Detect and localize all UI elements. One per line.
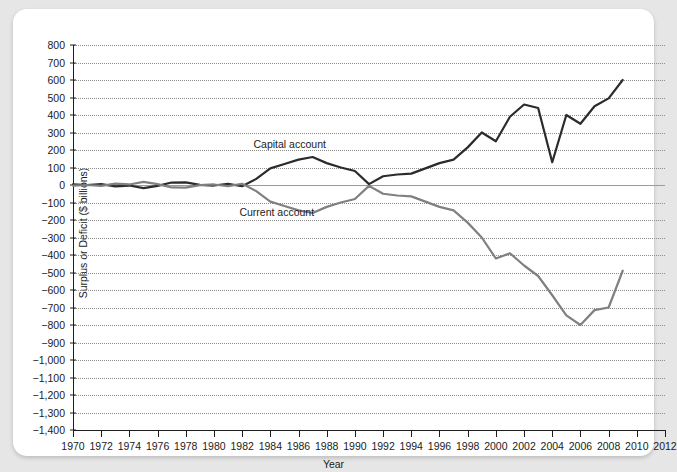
y-tick-label: −100 — [41, 197, 65, 209]
x-tick-label: 1998 — [456, 440, 479, 452]
x-tick-mark — [186, 430, 187, 437]
y-tick-label: −1,300 — [33, 407, 65, 419]
series-line-current-account — [73, 182, 623, 325]
x-tick-label: 2012 — [653, 440, 676, 452]
x-tick-label: 1986 — [287, 440, 310, 452]
x-tick-mark — [355, 430, 356, 437]
y-tick-label: 600 — [47, 74, 65, 86]
x-tick-mark — [129, 430, 130, 437]
x-tick-label: 1984 — [259, 440, 282, 452]
y-tick-label: 700 — [47, 57, 65, 69]
x-axis-line — [73, 430, 665, 431]
x-tick-mark — [552, 430, 553, 437]
y-tick-label: 400 — [47, 109, 65, 121]
chart-card: Surplus or Deficit ($ billions) Year 800… — [13, 9, 654, 456]
x-tick-mark — [411, 430, 412, 437]
x-tick-mark — [327, 430, 328, 437]
x-tick-label: 2004 — [541, 440, 564, 452]
y-tick-label: −200 — [41, 214, 65, 226]
x-tick-mark — [439, 430, 440, 437]
x-tick-mark — [73, 430, 74, 437]
x-tick-mark — [101, 430, 102, 437]
x-tick-label: 1976 — [146, 440, 169, 452]
x-tick-mark — [524, 430, 525, 437]
y-tick-label: −1,100 — [33, 372, 65, 384]
x-tick-label: 2010 — [625, 440, 648, 452]
y-tick-label: −1,200 — [33, 389, 65, 401]
y-tick-label: 100 — [47, 162, 65, 174]
y-tick-label: −300 — [41, 232, 65, 244]
series-label-current-account: Current account — [239, 206, 314, 218]
series-lines — [73, 45, 665, 430]
y-tick-label: −500 — [41, 267, 65, 279]
y-tick-label: −600 — [41, 284, 65, 296]
x-tick-label: 2008 — [597, 440, 620, 452]
y-tick-label: −1,000 — [33, 354, 65, 366]
x-tick-mark — [665, 430, 666, 437]
y-tick-label: −400 — [41, 249, 65, 261]
x-tick-mark — [609, 430, 610, 437]
x-tick-label: 1978 — [174, 440, 197, 452]
y-tick-label: 200 — [47, 144, 65, 156]
x-tick-mark — [158, 430, 159, 437]
x-tick-label: 1970 — [61, 440, 84, 452]
x-tick-mark — [468, 430, 469, 437]
y-tick-label: −900 — [41, 337, 65, 349]
x-tick-label: 1974 — [118, 440, 141, 452]
x-tick-label: 2006 — [569, 440, 592, 452]
x-tick-mark — [242, 430, 243, 437]
x-tick-label: 1990 — [343, 440, 366, 452]
series-label-capital-account: Capital account — [254, 138, 326, 150]
y-tick-label: −1,400 — [33, 424, 65, 436]
x-tick-mark — [270, 430, 271, 437]
x-tick-mark — [637, 430, 638, 437]
x-tick-mark — [496, 430, 497, 437]
x-tick-label: 1988 — [315, 440, 338, 452]
y-tick-label: −800 — [41, 319, 65, 331]
x-tick-label: 1980 — [202, 440, 225, 452]
y-tick-label: 500 — [47, 92, 65, 104]
x-tick-label: 2000 — [484, 440, 507, 452]
x-tick-label: 1982 — [230, 440, 253, 452]
y-tick-label: −700 — [41, 302, 65, 314]
y-tick-label: 300 — [47, 127, 65, 139]
plot-area — [73, 45, 665, 430]
x-tick-label: 1992 — [371, 440, 394, 452]
x-tick-mark — [299, 430, 300, 437]
y-tick-label: 800 — [47, 39, 65, 51]
x-tick-label: 1996 — [428, 440, 451, 452]
series-line-capital-account — [73, 80, 623, 188]
x-tick-mark — [214, 430, 215, 437]
x-axis-title: Year — [13, 458, 654, 470]
x-tick-label: 2002 — [512, 440, 535, 452]
x-tick-mark — [383, 430, 384, 437]
x-tick-mark — [580, 430, 581, 437]
x-tick-label: 1972 — [90, 440, 113, 452]
x-tick-label: 1994 — [400, 440, 423, 452]
y-tick-label: 0 — [59, 179, 65, 191]
